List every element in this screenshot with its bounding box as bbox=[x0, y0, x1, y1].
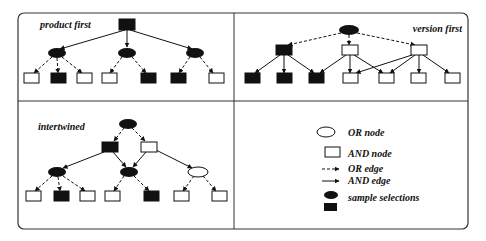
or-edges bbox=[34, 57, 213, 73]
legend-and-edge: AND edge bbox=[347, 175, 391, 186]
legend-sample-selections: sample selections bbox=[347, 192, 419, 203]
legend: OR node AND node OR edge AND edge sample… bbox=[317, 127, 419, 211]
diagram-canvas: product first bbox=[0, 0, 486, 241]
and-edges bbox=[63, 150, 192, 168]
and-edges bbox=[60, 30, 192, 49]
or-node-selected bbox=[186, 48, 204, 58]
and-node bbox=[342, 45, 358, 55]
selected-and-icon bbox=[324, 203, 337, 211]
panel-label: intertwined bbox=[38, 121, 86, 132]
panel-intertwined: intertwined bbox=[26, 119, 227, 201]
and-edges bbox=[255, 55, 449, 73]
or-node-selected bbox=[120, 167, 138, 177]
and-node-selected bbox=[102, 142, 118, 152]
legend-and-node: AND node bbox=[347, 148, 392, 159]
and-node-icon bbox=[325, 147, 340, 157]
and-node-selected bbox=[119, 19, 135, 30]
leaf-nodes bbox=[26, 191, 227, 201]
or-node-selected bbox=[48, 48, 66, 58]
panel-label: version first bbox=[413, 23, 463, 34]
and-node-selected bbox=[276, 45, 292, 55]
or-node-selected bbox=[339, 25, 359, 35]
and-node bbox=[411, 45, 427, 55]
or-edges bbox=[35, 128, 216, 191]
or-node bbox=[188, 167, 208, 177]
panel-version-first: version first bbox=[245, 23, 463, 83]
or-node-icon bbox=[317, 127, 335, 137]
selected-or-icon bbox=[324, 191, 338, 199]
panel-product-first: product first bbox=[24, 19, 224, 83]
legend-or-node: OR node bbox=[348, 127, 385, 138]
and-node bbox=[141, 142, 157, 152]
legend-or-edge: OR edge bbox=[348, 163, 384, 174]
or-node-selected bbox=[119, 119, 137, 129]
or-node-selected bbox=[48, 167, 66, 177]
or-node-selected bbox=[118, 48, 136, 58]
leaf-nodes bbox=[245, 73, 460, 83]
panel-label: product first bbox=[39, 19, 92, 30]
leaf-nodes bbox=[24, 73, 224, 83]
